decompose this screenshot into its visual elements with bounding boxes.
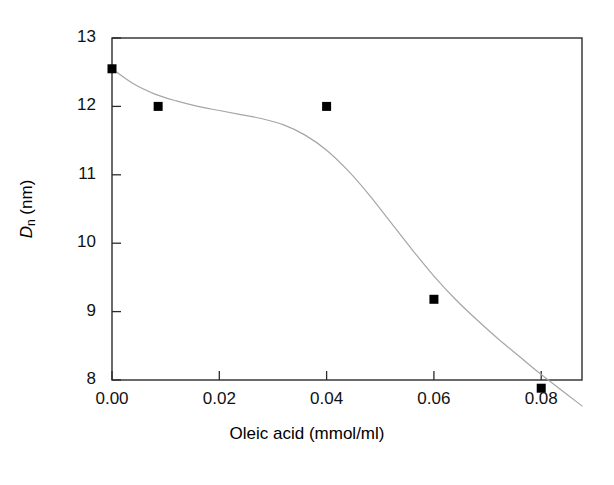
data-point xyxy=(322,102,331,111)
data-point-markers xyxy=(108,64,546,392)
figure-canvas: 8910111213 0.000.020.040.060.08 Dn (nm) … xyxy=(0,0,614,485)
data-point xyxy=(429,295,438,304)
x-tick-label: 0.06 xyxy=(394,389,474,409)
y-tick-label: 10 xyxy=(0,232,96,252)
x-axis-ticks xyxy=(112,371,541,380)
y-tick-label: 12 xyxy=(0,95,96,115)
y-axis-subscript: n xyxy=(24,219,38,226)
x-tick-label: 0.04 xyxy=(287,389,367,409)
fit-curve xyxy=(112,69,582,406)
x-axis-title: Oleic acid (mmol/ml) xyxy=(0,424,614,444)
axes-frame xyxy=(112,38,582,380)
data-point xyxy=(108,64,117,73)
data-point xyxy=(154,102,163,111)
y-axis-ticks xyxy=(112,38,121,380)
x-tick-label: 0.02 xyxy=(179,389,259,409)
y-axis-units: (nm) xyxy=(17,180,36,220)
y-tick-label: 8 xyxy=(0,369,96,389)
y-axis-symbol: D xyxy=(17,226,36,238)
y-tick-label: 11 xyxy=(0,164,96,184)
y-tick-label: 9 xyxy=(0,301,96,321)
x-tick-label: 0.08 xyxy=(501,389,581,409)
x-tick-label: 0.00 xyxy=(72,389,152,409)
y-tick-label: 13 xyxy=(0,27,96,47)
y-axis-title: Dn (nm) xyxy=(17,180,38,239)
